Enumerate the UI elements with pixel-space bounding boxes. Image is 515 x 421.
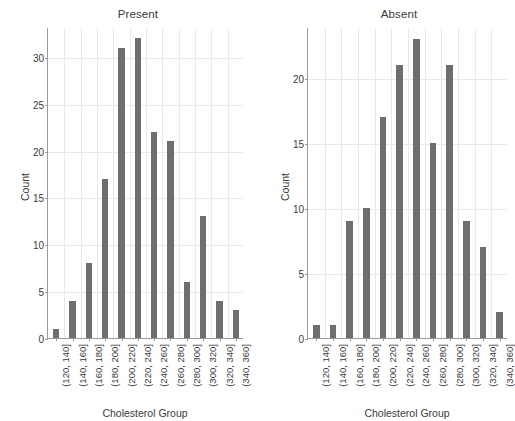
x-tick-label: (160, 180] [93,344,104,387]
bar [380,117,387,338]
bar [346,221,353,338]
x-tick-label: (320, 340] [224,344,235,387]
chart-panel-absent: Absent Count 05101520(120, 140](140, 160… [252,0,514,421]
y-tick-label: 10 [293,203,304,214]
x-tick-mark [350,338,351,341]
x-tick-label: (180, 200] [109,344,120,387]
y-tick-label: 10 [33,240,44,251]
x-tick-label: (220, 240] [142,344,153,387]
y-tick-mark [305,209,308,210]
y-tick-label: 0 [38,334,44,345]
y-axis-label-absent: Count [279,172,291,200]
x-tick-mark [203,338,204,341]
x-tick-mark [56,338,57,341]
y-tick-mark [305,79,308,80]
x-tick-label: (320, 340] [487,344,498,387]
x-tick-label: (300, 320] [207,344,218,387]
x-tick-mark [236,338,237,341]
x-tick-label: (240, 260] [420,344,431,387]
x-tick-label: (140, 160] [77,344,88,387]
x-tick-mark [450,338,451,341]
chart-title-present: Present [34,8,242,20]
y-tick-label: 25 [33,99,44,110]
bar [413,39,420,338]
y-tick-label: 0 [298,334,304,345]
y-tick-mark [305,339,308,340]
bar [118,48,125,338]
y-tick-label: 15 [293,138,304,149]
y-tick-label: 15 [33,193,44,204]
x-tick-mark [366,338,367,341]
bar-series-present [48,28,243,338]
y-tick-mark [45,292,48,293]
y-tick-label: 20 [33,146,44,157]
x-tick-mark [154,338,155,341]
bar [313,325,320,338]
x-tick-label: (340, 360] [240,344,251,387]
x-tick-mark [466,338,467,341]
x-tick-mark [105,338,106,341]
bar [430,143,437,338]
bar [184,282,191,338]
bar [135,38,142,338]
bar [330,325,337,338]
x-tick-mark [122,338,123,341]
x-tick-label: (120, 140] [320,344,331,387]
x-tick-mark [138,338,139,341]
chart-title-absent: Absent [294,8,504,20]
x-tick-mark [89,338,90,341]
x-tick-label: (340, 360] [504,344,515,387]
y-tick-mark [305,144,308,145]
x-tick-mark [383,338,384,341]
bar [86,263,93,338]
x-tick-label: (200, 220] [387,344,398,387]
bar [446,65,453,338]
y-tick-label: 30 [33,52,44,63]
y-tick-mark [45,198,48,199]
x-tick-label: (260, 280] [437,344,448,387]
x-tick-mark [500,338,501,341]
x-tick-label: (160, 180] [354,344,365,387]
y-tick-mark [305,274,308,275]
plot-area-present: 051015202530(120, 140](140, 160](160, 18… [47,28,243,339]
x-tick-label: (140, 160] [337,344,348,387]
bar [396,65,403,338]
bar [200,216,207,338]
x-tick-label: (180, 200] [370,344,381,387]
x-tick-mark [416,338,417,341]
x-tick-label: (120, 140] [60,344,71,387]
y-tick-mark [45,105,48,106]
bar-series-absent [308,28,507,338]
y-tick-label: 5 [38,287,44,298]
bar [216,301,223,338]
x-axis-label-absent: Cholesterol Group [307,407,507,419]
bar [233,310,240,338]
x-tick-mark [170,338,171,341]
x-tick-mark [400,338,401,341]
bar [363,208,370,338]
bar [69,301,76,338]
y-tick-mark [45,339,48,340]
x-tick-label: (300, 320] [470,344,481,387]
x-tick-mark [316,338,317,341]
bar [480,247,487,338]
x-tick-label: (200, 220] [126,344,137,387]
y-tick-mark [45,58,48,59]
bar [463,221,470,338]
y-tick-mark [45,245,48,246]
x-tick-label: (240, 260] [158,344,169,387]
x-tick-mark [483,338,484,341]
x-tick-mark [220,338,221,341]
bar [496,312,503,338]
y-tick-label: 20 [293,73,304,84]
plot-area-absent: 05101520(120, 140](140, 160](160, 180](1… [307,28,507,339]
bar [167,141,174,338]
bar [151,132,158,338]
y-tick-label: 5 [298,268,304,279]
x-tick-mark [73,338,74,341]
x-tick-label: (280, 300] [191,344,202,387]
x-tick-label: (220, 240] [404,344,415,387]
bar [102,179,109,338]
y-axis-label-present: Count [19,172,31,200]
